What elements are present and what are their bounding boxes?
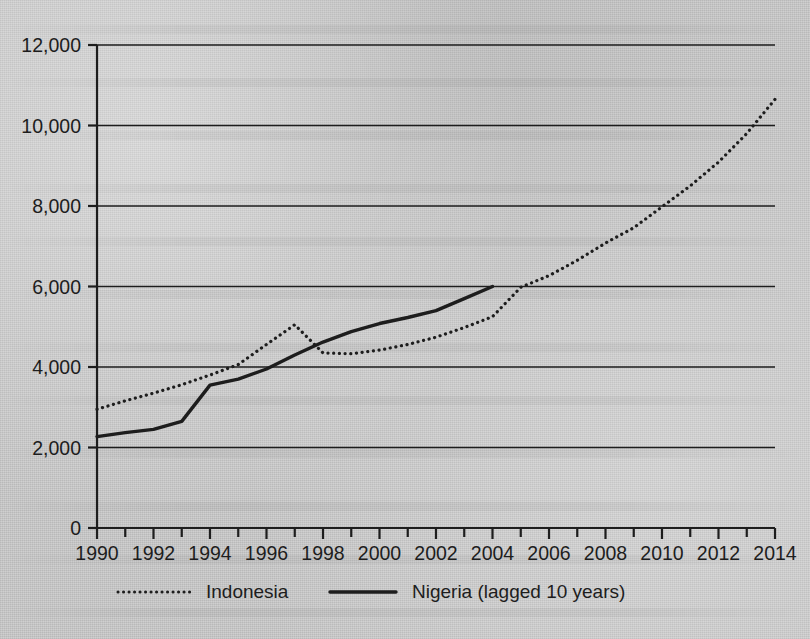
x-tick-label-2010: 2010: [640, 542, 684, 564]
x-tick-label-1998: 1998: [301, 542, 344, 564]
y-tick-label-6000: 6,000: [32, 276, 81, 298]
legend-item-nigeria-lagged-10-years-label: Nigeria (lagged 10 years): [412, 581, 625, 602]
y-tick-label-4000: 4,000: [32, 356, 81, 378]
y-tick-labels: 02,0004,0006,0008,00010,00012,000: [21, 34, 81, 539]
x-tick-label-1992: 1992: [132, 542, 175, 564]
series-line-indonesia: [97, 99, 775, 409]
chart-legend: IndonesiaNigeria (lagged 10 years): [118, 581, 625, 602]
x-tick-label-1996: 1996: [245, 542, 288, 564]
x-tick-label-1994: 1994: [188, 542, 232, 564]
legend-item-indonesia-label: Indonesia: [206, 581, 289, 602]
series-line-nigeria-lagged-10-years: [97, 287, 493, 437]
x-tick-label-2014: 2014: [753, 542, 797, 564]
line-chart-figure: 02,0004,0006,0008,00010,00012,000 199019…: [0, 0, 810, 639]
y-tick-label-8000: 8,000: [32, 195, 81, 217]
gridlines: [97, 45, 775, 448]
data-series: [97, 99, 775, 436]
x-tick-label-2008: 2008: [584, 542, 627, 564]
x-tick-label-2012: 2012: [697, 542, 740, 564]
legend-item-indonesia: Indonesia: [118, 581, 289, 602]
y-tick-label-12000: 12,000: [21, 34, 81, 56]
chart-canvas: 02,0004,0006,0008,00010,00012,000 199019…: [0, 0, 810, 639]
x-tick-label-2004: 2004: [471, 542, 515, 564]
x-tick-labels: 1990199219941996199820002002200420062008…: [75, 542, 797, 564]
x-tick-label-2002: 2002: [414, 542, 457, 564]
y-tick-label-10000: 10,000: [21, 115, 81, 137]
x-tick-label-2000: 2000: [358, 542, 402, 564]
x-axis: [97, 528, 775, 539]
y-axis: [88, 45, 97, 528]
y-tick-label-0: 0: [70, 517, 81, 539]
legend-item-nigeria-lagged-10-years: Nigeria (lagged 10 years): [330, 581, 625, 602]
x-tick-label-1990: 1990: [75, 542, 119, 564]
y-tick-label-2000: 2,000: [32, 437, 81, 459]
x-tick-label-2006: 2006: [527, 542, 570, 564]
